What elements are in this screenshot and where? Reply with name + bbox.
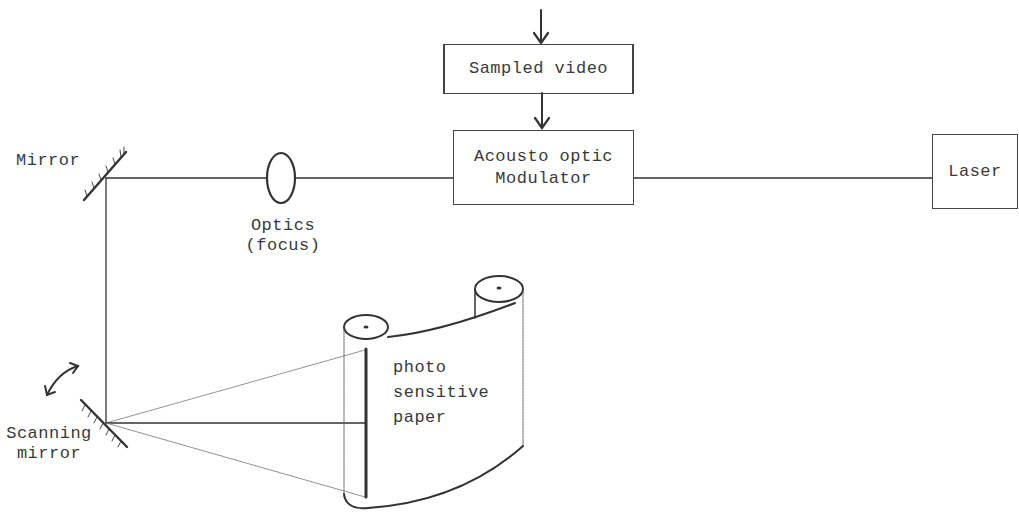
input-arrow — [534, 10, 548, 43]
paper-label-line1: photo — [393, 355, 489, 380]
lens-icon — [267, 153, 295, 203]
video-to-modulator-arrow — [535, 93, 549, 128]
modulator-label-line2: Modulator — [495, 168, 591, 190]
mirror-label: Mirror — [16, 151, 80, 171]
modulator-label-line1: Acousto optic — [474, 146, 613, 168]
paper-label-line3: paper — [393, 405, 489, 430]
sampled-video-block: Sampled video — [443, 44, 634, 94]
optics-label-line2: (focus) — [243, 236, 323, 256]
laser-label: Laser — [948, 161, 1002, 183]
optics-label-line1: Optics — [243, 216, 323, 236]
sampled-video-label: Sampled video — [469, 58, 608, 80]
optics-label: Optics (focus) — [243, 216, 323, 256]
scan-fan-beams — [106, 350, 365, 497]
scanning-mirror-label-line1: Scanning — [1, 424, 97, 444]
photo-sensitive-paper-label: photo sensitive paper — [393, 355, 489, 430]
laser-block: Laser — [932, 134, 1018, 209]
scanning-mirror-label: Scanning mirror — [1, 424, 97, 464]
fold-mirror-icon — [84, 147, 126, 200]
acousto-optic-modulator-block: Acousto optic Modulator — [453, 130, 634, 205]
rotation-arrow-icon — [45, 363, 78, 395]
paper-label-line2: sensitive — [393, 380, 489, 405]
scanning-mirror-label-line2: mirror — [1, 444, 97, 464]
